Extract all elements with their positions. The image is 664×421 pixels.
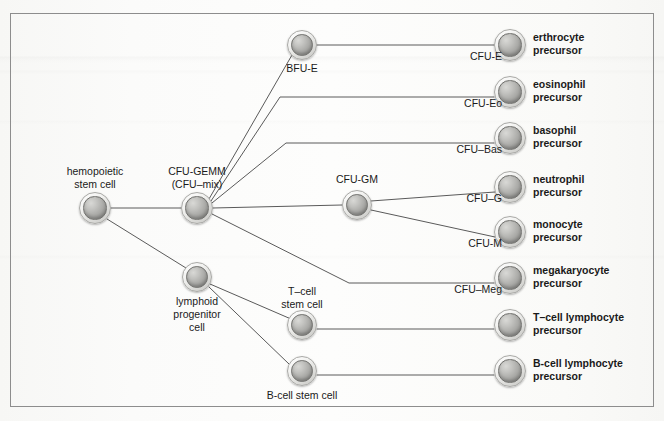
cell-node-lymphoid-progenitor[interactable] <box>182 262 212 292</box>
cell-node-bfu-e[interactable] <box>287 30 317 60</box>
node-label-cfu-g: CFU–G <box>448 192 502 205</box>
cell-node-t-cell-lymphocyte[interactable] <box>494 309 526 341</box>
sphere-ball <box>498 359 521 382</box>
sphere-ball <box>291 360 313 382</box>
cfu-gemm-to-cfu-gm <box>213 205 342 208</box>
cfu-gm-to-cfu-m <box>371 210 495 237</box>
sphere-ball <box>291 34 313 56</box>
hemopoiesis-diagram: hemopoietic stem cellCFU-GEMM (CFU–mix)B… <box>0 0 664 421</box>
cell-node-b-cell-stem[interactable] <box>287 356 317 386</box>
node-label-t-cell-stem: T–cell stem cell <box>262 285 342 311</box>
terminal-label-t-cell-lymphocyte-precursor: T–cell lymphocyte precursor <box>533 311 659 337</box>
sphere-ball <box>186 266 208 288</box>
cell-node-b-cell-lymphocyte[interactable] <box>494 355 526 387</box>
terminal-label-erthrocyte-precursor: erthrocyte precursor <box>533 31 659 57</box>
node-label-cfu-e: CFU-E <box>450 50 502 63</box>
node-label-cfu-gm: CFU-GM <box>327 173 387 186</box>
terminal-label-basophil-precursor: basophil precursor <box>533 124 659 150</box>
sphere-ball <box>291 314 313 336</box>
cell-node-cfu-gemm[interactable] <box>181 192 213 224</box>
terminal-label-megakaryocyte-precursor: megakaryocyte precursor <box>533 264 659 290</box>
hsc-to-lymphoid-progenitor <box>107 219 186 268</box>
sphere-ball <box>185 196 208 219</box>
terminal-label-neutrophil-precursor: neutrophil precursor <box>533 173 659 199</box>
node-label-cfu-gemm: CFU-GEMM (CFU–mix) <box>149 165 245 191</box>
node-label-cfu-eo: CFU-Eo <box>446 97 502 110</box>
node-label-bfu-e: BFU-E <box>272 62 332 75</box>
node-label-cfu-m: CFU-M <box>446 237 502 250</box>
sphere-ball <box>498 313 521 336</box>
node-label-b-cell-stem: B-cell stem cell <box>240 389 364 402</box>
node-label-lymphoid-progenitor: lymphoid progenitor cell <box>149 295 245 333</box>
cell-node-cfu-gm[interactable] <box>342 190 372 220</box>
cell-node-hemopoietic-stem-cell[interactable] <box>79 192 111 224</box>
terminal-label-monocyte-precursor: monocyte precursor <box>533 218 659 244</box>
cell-node-t-cell-stem[interactable] <box>287 310 317 340</box>
terminal-label-b-cell-lymphocyte-precursor: B-cell lymphocyte precursor <box>533 357 659 383</box>
node-label-cfu-meg: CFU–Meg <box>436 283 502 296</box>
node-label-cfu-bas: CFU–Bas <box>440 143 502 156</box>
sphere-ball <box>83 196 106 219</box>
terminal-label-eosinophil-precursor: eosinophil precursor <box>533 78 659 104</box>
node-label-hemopoietic-stem-cell: hemopoietic stem cell <box>47 165 143 191</box>
sphere-ball <box>346 194 368 216</box>
